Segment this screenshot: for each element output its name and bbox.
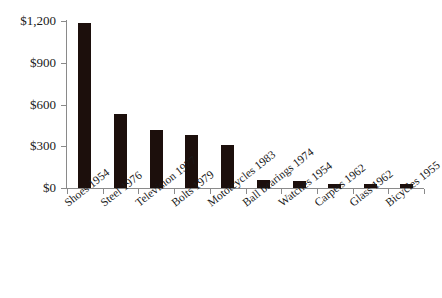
y-axis-tick-label: $0 xyxy=(0,181,56,194)
bars-layer xyxy=(67,21,424,188)
y-axis-tick-label: $1,200 xyxy=(0,14,56,27)
y-axis-tick-label: $300 xyxy=(0,139,56,152)
bar[interactable] xyxy=(78,23,91,188)
x-axis-tick xyxy=(424,189,425,194)
y-axis-tick-label: $600 xyxy=(0,98,56,111)
y-axis-tick-label: $900 xyxy=(0,56,56,69)
